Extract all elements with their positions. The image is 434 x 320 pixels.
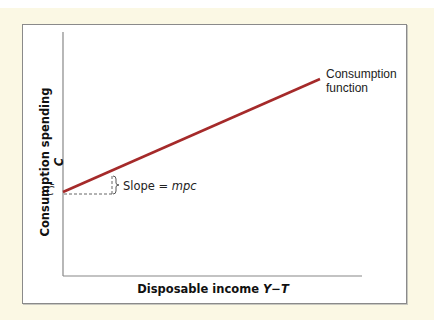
x-axis-label-text: Disposable income [137, 282, 263, 296]
consumption-function-label: Consumptionfunction [326, 67, 397, 95]
slope-var: mpc [172, 179, 197, 193]
y-axis-label-text: Consumption spending [38, 88, 52, 237]
cf-line2: function [326, 81, 397, 95]
brace-icon [113, 176, 119, 194]
cf-line1: Consumption [326, 67, 397, 81]
slope-label: Slope = mpc [123, 179, 197, 193]
consumption-function-line [63, 79, 320, 192]
y-axis-label: Consumption spending C [38, 82, 66, 242]
x-axis-label-var: Y−T [263, 282, 289, 296]
x-axis-label: Disposable income Y−T [63, 282, 363, 296]
y-axis-label-var: C [52, 158, 66, 166]
slope-prefix: Slope = [123, 179, 172, 193]
